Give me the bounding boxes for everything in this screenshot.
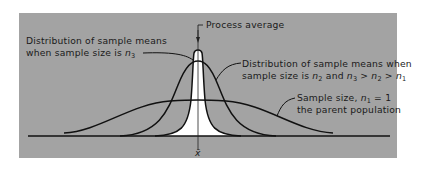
process-average-label: Process average — [206, 19, 285, 30]
n3-label-line2: when sample size is n3 — [26, 47, 135, 60]
arrowhead-icon — [196, 37, 200, 43]
n3-leader-line — [143, 53, 193, 60]
n2-leader-line — [216, 63, 241, 80]
n1-label-line2: the parent population — [297, 104, 401, 115]
n1-leader-line — [277, 98, 295, 116]
distribution-diagram: Process average Distribution of sample m… — [0, 0, 432, 174]
n2-label-line2: sample size is n2 and n3 > n2 > n1 — [242, 70, 406, 83]
n3-label-line1: Distribution of sample means — [26, 35, 167, 46]
n2-label-line1: Distribution of sample means when — [242, 58, 412, 69]
mean-axis-label: x̄ — [194, 147, 201, 158]
